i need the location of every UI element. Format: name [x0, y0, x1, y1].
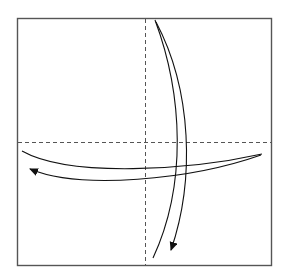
diagram-stage — [0, 0, 286, 279]
origami-diagram — [0, 0, 286, 279]
